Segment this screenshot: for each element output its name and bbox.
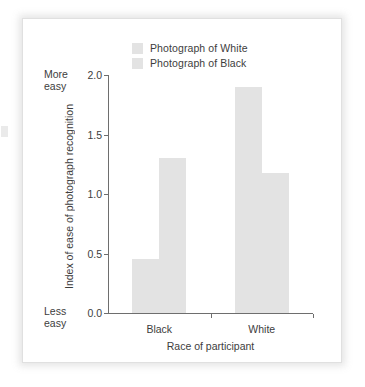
y-axis-tick bbox=[104, 194, 108, 195]
chart-legend: Photograph of WhitePhotograph of Black bbox=[132, 42, 248, 69]
legend-label: Photograph of White bbox=[150, 42, 248, 54]
legend-label: Photograph of Black bbox=[150, 57, 246, 69]
x-axis-category-label: Black bbox=[146, 323, 172, 335]
legend-swatch-icon bbox=[132, 58, 143, 69]
x-axis-tick bbox=[211, 314, 212, 318]
x-axis-category-label: White bbox=[248, 323, 275, 335]
y-axis-tick-label: 2.0 bbox=[87, 69, 102, 81]
y-axis-high-annotation-line1: More bbox=[44, 68, 68, 80]
y-axis-low-annotation: Less easy bbox=[44, 305, 66, 329]
bar bbox=[132, 259, 159, 313]
y-axis-tick-label: 1.5 bbox=[87, 129, 102, 141]
y-axis-tick-label: 1.0 bbox=[87, 188, 102, 200]
legend-item: Photograph of White bbox=[132, 42, 248, 54]
bar bbox=[262, 173, 289, 313]
plot-area: 0.00.51.01.52.0BlackWhite bbox=[108, 75, 313, 313]
y-axis-line bbox=[108, 75, 109, 313]
legend-item: Photograph of Black bbox=[132, 57, 248, 69]
bar bbox=[235, 87, 262, 313]
bar bbox=[159, 158, 186, 313]
y-axis-high-annotation-line2: easy bbox=[44, 80, 68, 92]
y-axis-low-annotation-line1: Less bbox=[44, 305, 66, 317]
y-axis-title: Index of ease of photograph recognition bbox=[62, 96, 76, 296]
x-axis-tick bbox=[313, 314, 314, 318]
y-axis-high-annotation: More easy bbox=[44, 68, 68, 92]
y-axis-tick bbox=[104, 313, 108, 314]
y-axis-tick-label: 0.0 bbox=[87, 307, 102, 319]
y-axis-tick bbox=[104, 254, 108, 255]
y-axis-tick-label: 0.5 bbox=[87, 248, 102, 260]
y-axis-tick bbox=[104, 75, 108, 76]
x-axis-title: Race of participant bbox=[108, 340, 313, 352]
page-edge-artifact bbox=[1, 126, 8, 137]
y-axis-low-annotation-line2: easy bbox=[44, 317, 66, 329]
legend-swatch-icon bbox=[132, 43, 143, 54]
y-axis-tick bbox=[104, 135, 108, 136]
